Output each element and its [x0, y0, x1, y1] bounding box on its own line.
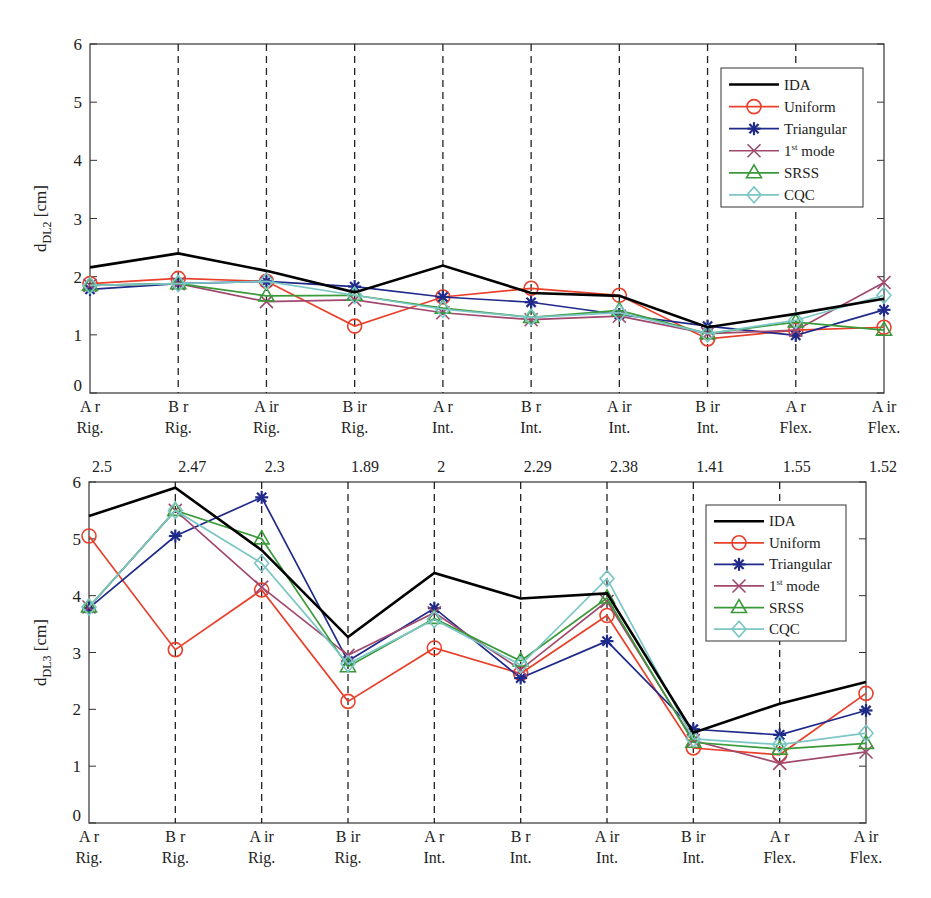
legend: IDAUniformTriangular1st modeSRSSCQC [721, 68, 863, 207]
x-category-label: B ir [336, 828, 361, 845]
x-category-label: Flex. [780, 419, 812, 436]
x-category-label: Rig. [162, 849, 189, 867]
x-category-label: Flex. [868, 419, 900, 436]
y-tick-label: 1 [74, 326, 83, 345]
x-category-label: B ir [695, 398, 720, 415]
x-category-label: A r [433, 398, 454, 415]
legend-label: IDA [769, 513, 796, 529]
legend-label: Triangular [784, 121, 847, 137]
x-category-label: Int. [510, 849, 532, 866]
top-annotation: 2.29 [524, 458, 552, 475]
top-annotation: 2.38 [610, 458, 638, 475]
x-category-label: Rig. [341, 419, 368, 437]
y-tick-label: 1 [73, 757, 82, 776]
x-category-label: A ir [249, 828, 274, 845]
x-category-label: A ir [872, 398, 897, 415]
chart-dDL2: 0123456A rRig.B rRig.A irRig.B irRig.A r… [31, 35, 900, 437]
legend-label: CQC [784, 187, 815, 203]
x-category-label: Rig. [253, 419, 280, 437]
x-category-label: A r [80, 398, 101, 415]
x-category-label: B ir [681, 828, 706, 845]
x-category-label: Rig. [75, 849, 102, 867]
y-tick-label: 0 [73, 806, 82, 825]
y-tick-label: 0 [74, 376, 83, 395]
y-tick-label: 5 [73, 530, 82, 549]
y-tick-label: 4 [73, 587, 82, 606]
x-category-label: Int. [682, 849, 704, 866]
top-annotation: 2.5 [92, 458, 112, 475]
x-category-label: A r [770, 828, 791, 845]
legend-label: SRSS [784, 165, 819, 181]
x-category-label: Int. [520, 419, 542, 436]
x-category-label: B ir [342, 398, 367, 415]
x-category-label: A ir [254, 398, 279, 415]
y-axis-label: dDL3 [cm] [31, 619, 54, 686]
legend: IDAUniformTriangular1st modeSRSSCQC [706, 505, 846, 641]
x-category-label: Rig. [76, 419, 103, 437]
top-annotation: 1.55 [783, 458, 811, 475]
top-annotation: 1.89 [351, 458, 379, 475]
top-annotation: 2.3 [265, 458, 285, 475]
x-category-label: Rig. [334, 849, 361, 867]
y-tick-label: 2 [74, 268, 83, 287]
top-annotation: 1.41 [696, 458, 724, 475]
legend-label: CQC [769, 621, 800, 637]
y-axis-label: dDL2 [cm] [31, 185, 54, 252]
x-category-label: B r [521, 398, 542, 415]
y-tick-label: 6 [73, 473, 82, 492]
x-category-label: Int. [423, 849, 445, 866]
x-category-label: A r [786, 398, 807, 415]
x-category-label: A r [424, 828, 445, 845]
x-category-label: Int. [608, 419, 630, 436]
top-annotation: 2 [437, 458, 445, 475]
series-1st-mode [84, 276, 891, 340]
x-category-label: Rig. [165, 419, 192, 437]
legend-label: IDA [784, 77, 811, 93]
x-category-label: B r [165, 828, 186, 845]
y-tick-label: 6 [74, 35, 83, 54]
x-category-label: Int. [432, 419, 454, 436]
x-category-label: Int. [596, 849, 618, 866]
y-tick-label: 3 [73, 644, 82, 663]
x-category-label: B r [511, 828, 532, 845]
x-category-label: Rig. [248, 849, 275, 867]
x-category-label: A r [79, 828, 100, 845]
y-tick-label: 5 [74, 93, 83, 112]
legend-label: SRSS [769, 600, 804, 616]
x-category-label: Int. [697, 419, 719, 436]
y-tick-label: 3 [74, 210, 83, 229]
legend-label: Triangular [769, 556, 832, 572]
x-category-label: Flex. [763, 849, 795, 866]
x-category-label: Flex. [850, 849, 882, 866]
x-category-label: A ir [854, 828, 879, 845]
legend-label: Uniform [769, 535, 821, 551]
x-category-label: B r [168, 398, 189, 415]
figure: 0123456A rRig.B rRig.A irRig.B irRig.A r… [0, 0, 931, 898]
y-tick-label: 4 [74, 151, 83, 170]
top-annotation: 1.52 [869, 458, 897, 475]
top-annotation: 2.47 [178, 458, 206, 475]
x-category-label: A ir [607, 398, 632, 415]
x-category-label: A ir [595, 828, 620, 845]
series-srss [83, 276, 892, 339]
legend-label: Uniform [784, 99, 836, 115]
chart-dDL3: 0123456A rRig.B rRig.A irRig.B irRig.A r… [31, 458, 897, 867]
y-tick-label: 2 [73, 700, 82, 719]
